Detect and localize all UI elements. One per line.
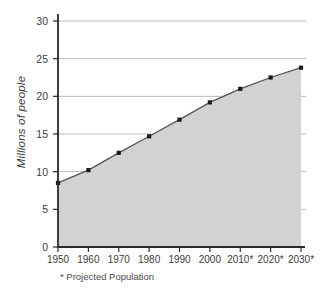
area-fill-group (58, 68, 301, 247)
area-fill (58, 68, 301, 247)
x-tick-label-2010: 2010* (227, 255, 253, 265)
x-tick-label-1980: 1980 (138, 255, 160, 265)
x-tick-label-1950: 1950 (47, 255, 69, 265)
data-point-marker-1960 (86, 168, 90, 172)
x-tick-label-1960: 1960 (77, 255, 99, 265)
x-tick-label-1990: 1990 (168, 255, 190, 265)
x-tick-label-1970: 1970 (108, 255, 130, 265)
y-tick-label-0: 0 (24, 242, 48, 252)
y-tick-label-15: 15 (24, 129, 48, 139)
y-tick-label-25: 25 (24, 54, 48, 64)
data-point-marker-2010 (238, 87, 242, 91)
data-point-marker-1990 (177, 118, 181, 122)
y-tick-label-10: 10 (24, 167, 48, 177)
data-point-marker-2000 (208, 100, 212, 104)
chart-footnote: * Projected Population (60, 271, 154, 282)
y-tick-label-20: 20 (24, 91, 48, 101)
data-point-marker-2020 (269, 75, 273, 79)
y-tick-label-30: 30 (24, 16, 48, 26)
population-area-chart: Millions of people 051015202530 19501960… (0, 0, 325, 297)
y-tick-label-5: 5 (24, 204, 48, 214)
data-point-marker-1980 (147, 134, 151, 138)
data-point-marker-1970 (117, 151, 121, 155)
data-point-marker-2030 (299, 66, 303, 70)
x-tick-label-2000: 2000 (199, 255, 221, 265)
chart-plot-area (0, 0, 325, 297)
x-tick-label-2030: 2030* (288, 255, 314, 265)
x-tick-label-2020: 2020* (258, 255, 284, 265)
